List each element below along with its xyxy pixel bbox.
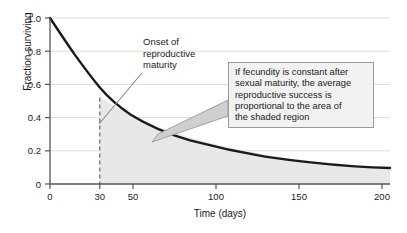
x-tick-label-150: 150 (291, 191, 307, 202)
x-tick-labels: 0 30 50 100 150 200 (47, 191, 390, 202)
onset-annotation: Onset of reproductive maturity (143, 36, 195, 71)
y-tick-label-0: 0 (36, 179, 41, 190)
y-tick-marks (45, 18, 50, 184)
fecundity-leader-pointer (152, 100, 228, 142)
figure-container: 1.0 0.8 0.6 0.4 0.2 0 0 30 50 100 150 20… (0, 0, 407, 233)
y-axis-label: Fraction surviving (22, 0, 33, 117)
x-tick-marks (50, 184, 382, 189)
x-tick-label-30: 30 (95, 191, 106, 202)
x-tick-label-100: 100 (208, 191, 224, 202)
onset-annotation-line-3: maturity (143, 59, 195, 71)
fecundity-line-4: proportional to the area of (235, 101, 368, 112)
x-tick-label-0: 0 (47, 191, 52, 202)
fecundity-line-2: sexual maturity, the average (235, 78, 368, 89)
y-tick-label-0.2: 0.2 (28, 145, 41, 156)
fecundity-line-5: the shaded region (235, 112, 368, 123)
fecundity-annotation-box: If fecundity is constant after sexual ma… (228, 62, 374, 128)
x-tick-label-50: 50 (128, 191, 139, 202)
x-tick-label-200: 200 (374, 191, 390, 202)
onset-annotation-line-1: Onset of (143, 36, 195, 48)
fecundity-line-1: If fecundity is constant after (235, 67, 368, 78)
onset-annotation-line-2: reproductive (143, 48, 195, 60)
fecundity-line-3: reproductive success is (235, 90, 368, 101)
x-axis-label: Time (days) (50, 208, 390, 219)
